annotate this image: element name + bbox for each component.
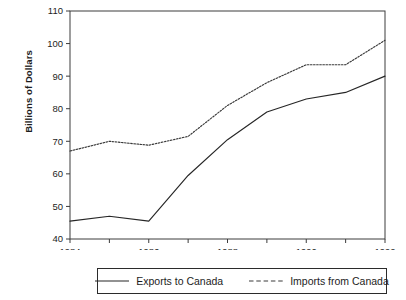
y-tick-label: 110 bbox=[48, 5, 63, 16]
chart-legend: Exports to Canada Imports from Canada bbox=[97, 268, 387, 294]
dashed-line-icon bbox=[249, 276, 283, 286]
x-tick-label: 1990 bbox=[296, 246, 317, 250]
y-tick-label: 50 bbox=[52, 201, 63, 212]
y-tick-label: 100 bbox=[47, 38, 63, 49]
x-tick-label: 1988 bbox=[217, 246, 238, 250]
plot-area: 40506070809010011019841986198819901992 bbox=[0, 0, 406, 250]
y-tick-label: 40 bbox=[52, 233, 63, 244]
series-line-exports bbox=[70, 76, 385, 221]
legend-label-imports: Imports from Canada bbox=[290, 275, 389, 287]
chart-figure: Billions of Dollars 40506070809010011019… bbox=[0, 0, 406, 300]
y-tick-label: 60 bbox=[52, 168, 63, 179]
solid-line-icon bbox=[95, 276, 129, 286]
x-tick-label: 1984 bbox=[59, 246, 80, 250]
series-line-imports bbox=[70, 40, 385, 151]
legend-item-imports: Imports from Canada bbox=[249, 275, 389, 287]
y-tick-label: 90 bbox=[52, 71, 63, 82]
legend-item-exports: Exports to Canada bbox=[95, 275, 223, 287]
y-tick-label: 80 bbox=[52, 103, 63, 114]
x-tick-label: 1986 bbox=[138, 246, 159, 250]
line-chart-svg: 40506070809010011019841986198819901992 bbox=[0, 0, 406, 250]
x-tick-label: 1992 bbox=[374, 246, 395, 250]
axis-frame bbox=[70, 11, 385, 239]
y-tick-label: 70 bbox=[52, 136, 63, 147]
legend-label-exports: Exports to Canada bbox=[136, 275, 223, 287]
